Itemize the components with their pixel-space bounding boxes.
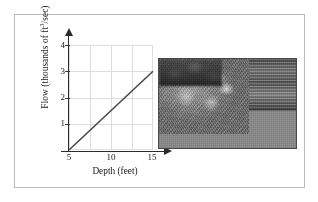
y-tick-mark bbox=[65, 124, 70, 125]
trend-line bbox=[69, 45, 153, 150]
y-axis-label-exponent: 3 bbox=[38, 23, 45, 26]
x-tick-label: 15 bbox=[142, 153, 162, 162]
flow-depth-chart: Flow (thousands of ft3/sec) bbox=[25, 23, 165, 183]
x-tick-label: 10 bbox=[101, 153, 121, 162]
y-tick-label: 1 bbox=[51, 119, 65, 128]
y-tick-label: 2 bbox=[51, 93, 65, 102]
y-tick-mark bbox=[65, 98, 70, 99]
y-axis-label-suffix: /sec) bbox=[40, 5, 50, 23]
y-tick-mark bbox=[65, 71, 70, 72]
figure-frame: Flow (thousands of ft3/sec) bbox=[14, 14, 305, 188]
y-axis-label: Flow (thousands of ft3/sec) bbox=[38, 2, 50, 112]
y-tick-mark bbox=[65, 45, 70, 46]
photo-film-grain bbox=[159, 59, 296, 148]
flow-depth-series-line bbox=[69, 71, 153, 150]
x-axis-label: Depth (feet) bbox=[63, 166, 167, 176]
river-photograph bbox=[158, 58, 297, 149]
y-axis-arrow bbox=[65, 28, 73, 36]
y-axis-label-prefix: Flow (thousands of ft bbox=[40, 27, 50, 109]
x-tick-label: 5 bbox=[59, 153, 79, 162]
y-tick-label: 3 bbox=[51, 67, 65, 76]
y-tick-label: 4 bbox=[51, 41, 65, 50]
y-axis-line bbox=[68, 35, 69, 152]
